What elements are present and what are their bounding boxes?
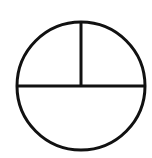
diagram-canvas <box>0 0 152 158</box>
circle-division-diagram <box>0 0 152 158</box>
